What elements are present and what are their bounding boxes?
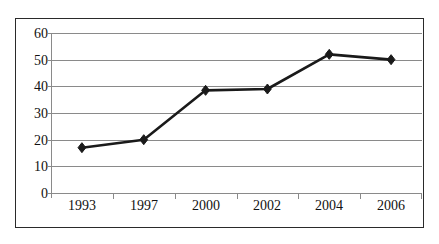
y-tick-label-50: 50 [20,54,48,68]
x-tick-label-2000: 2000 [175,199,237,213]
data-point-2002 [264,84,272,94]
data-point-2006 [387,55,395,65]
series-markers [78,49,395,152]
y-tick-label-0: 0 [20,187,48,201]
plot-area [51,33,422,193]
data-point-2004 [325,49,333,59]
y-tick-label-20: 20 [20,134,48,148]
chart-frame: 60 50 40 30 20 10 0 [15,18,424,228]
data-point-1993 [78,143,86,153]
x-tick-label-2006: 2006 [360,199,422,213]
y-tick-label-40: 40 [20,80,48,94]
x-axis-tick-labels: 1993 1997 2000 2002 2004 2006 [51,199,422,223]
series-line-group [51,33,422,194]
y-tick-label-60: 60 [20,27,48,41]
x-tick-label-1997: 1997 [113,199,175,213]
chart-page: 60 50 40 30 20 10 0 [0,0,439,244]
x-tick-label-2002: 2002 [236,199,298,213]
y-axis-tick-labels: 60 50 40 30 20 10 0 [16,33,48,193]
y-tick-label-30: 30 [20,107,48,121]
x-tick-label-2004: 2004 [298,199,360,213]
series-line [82,54,391,147]
x-tick-label-1993: 1993 [51,199,113,213]
y-tick-label-10: 10 [20,160,48,174]
